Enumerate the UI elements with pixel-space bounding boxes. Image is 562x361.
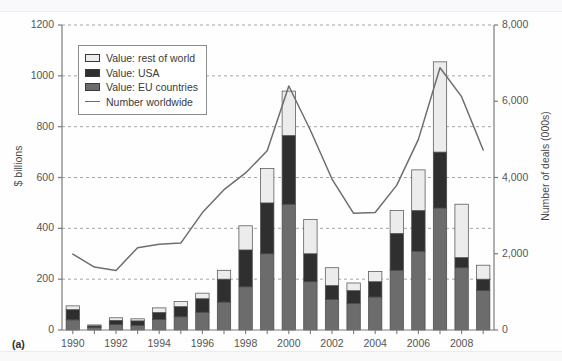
left-axis-tick-label: 600: [0, 171, 54, 183]
left-axis-title: $ billions: [12, 126, 24, 206]
legend-label-eu-countries: Value: EU countries: [106, 81, 198, 93]
right-axis-tick-label: 6,000: [502, 94, 528, 106]
legend-swatch-usa: [85, 69, 100, 77]
legend-label-number-worldwide: Number worldwide: [106, 96, 193, 108]
right-axis-tick-label: 0: [502, 323, 508, 335]
figure-container: $ billions Number of deals (000s) Value:…: [0, 0, 562, 361]
bottom-divider: [0, 351, 562, 352]
left-axis-tick-label: 400: [0, 221, 54, 233]
x-axis-tick-label: 2008: [437, 337, 487, 349]
legend-swatch-rest-of-world: [85, 54, 100, 62]
legend-label-rest-of-world: Value: rest of world: [106, 52, 195, 64]
legend-item-eu-countries: Value: EU countries: [85, 80, 198, 95]
legend-item-number-worldwide: Number worldwide: [85, 95, 198, 110]
legend-item-usa: Value: USA: [85, 66, 198, 81]
legend-swatch-eu-countries: [85, 83, 100, 91]
legend-line-number-worldwide: [85, 98, 100, 106]
legend-label-usa: Value: USA: [106, 67, 160, 79]
chart-legend: Value: rest of world Value: USA Value: E…: [78, 45, 207, 115]
right-axis-title: Number of deals (000s): [539, 106, 551, 226]
left-axis-tick-label: 200: [0, 272, 54, 284]
left-axis-tick-label: 800: [0, 120, 54, 132]
left-axis-tick-label: 0: [0, 323, 54, 335]
right-axis-tick-label: 2,000: [502, 247, 528, 259]
right-axis-tick-label: 8,000: [502, 18, 528, 30]
bottom-crop-strip: [0, 352, 562, 361]
left-axis-tick-label: 1200: [0, 18, 54, 30]
left-axis-tick-label: 1000: [0, 69, 54, 81]
legend-item-rest-of-world: Value: rest of world: [85, 51, 198, 66]
right-axis-tick-label: 4,000: [502, 171, 528, 183]
panel-label: (a): [12, 338, 25, 350]
